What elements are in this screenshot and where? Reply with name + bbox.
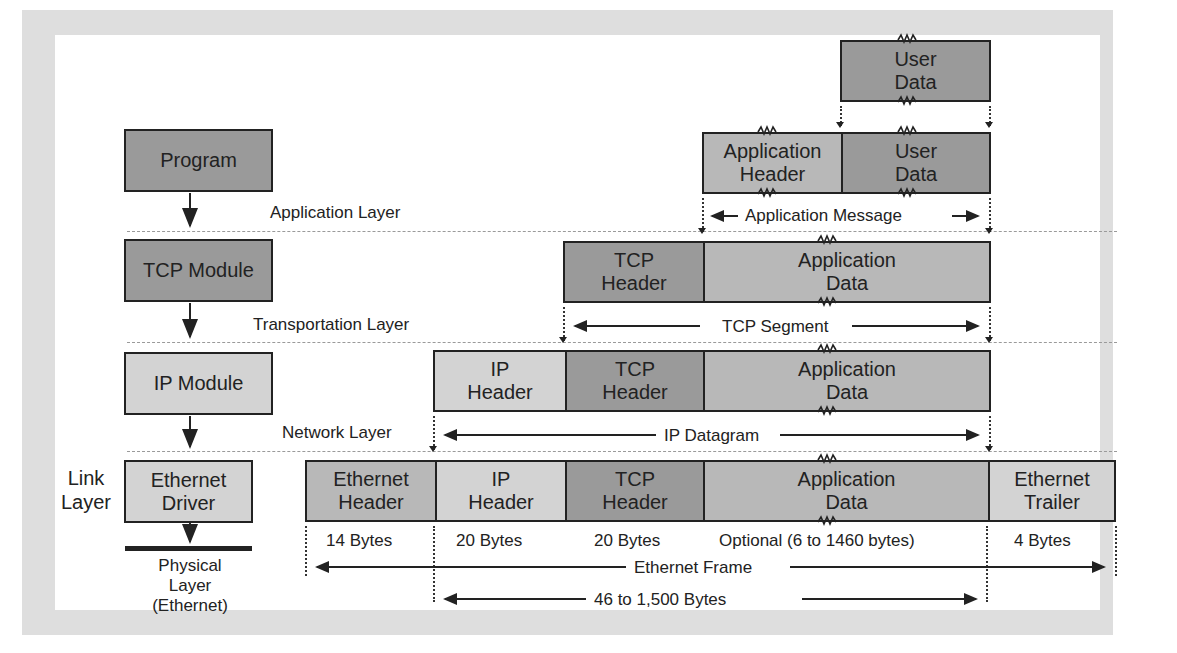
arrows-overlay	[0, 0, 1177, 653]
zigzag-break-icon	[758, 35, 916, 524]
dotted-arrow-tips	[429, 122, 993, 452]
span-arrows	[317, 216, 1104, 599]
